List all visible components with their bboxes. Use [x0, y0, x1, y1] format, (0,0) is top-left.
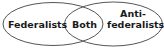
- anti-federalists-label-line1: Anti-: [107, 8, 159, 19]
- venn-diagram: Federalists Both Anti- federalists: [0, 0, 164, 53]
- anti-federalists-label: Anti- federalists: [107, 8, 159, 30]
- both-label: Both: [72, 19, 96, 30]
- anti-federalists-label-line2: federalists: [107, 19, 159, 30]
- federalists-label: Federalists: [8, 19, 58, 30]
